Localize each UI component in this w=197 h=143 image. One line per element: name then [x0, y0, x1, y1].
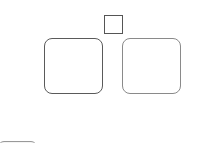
- left-panel[interactable]: [44, 38, 103, 94]
- small-square-checkbox[interactable]: [104, 15, 123, 34]
- right-panel[interactable]: [122, 38, 181, 94]
- partial-button[interactable]: [0, 141, 37, 143]
